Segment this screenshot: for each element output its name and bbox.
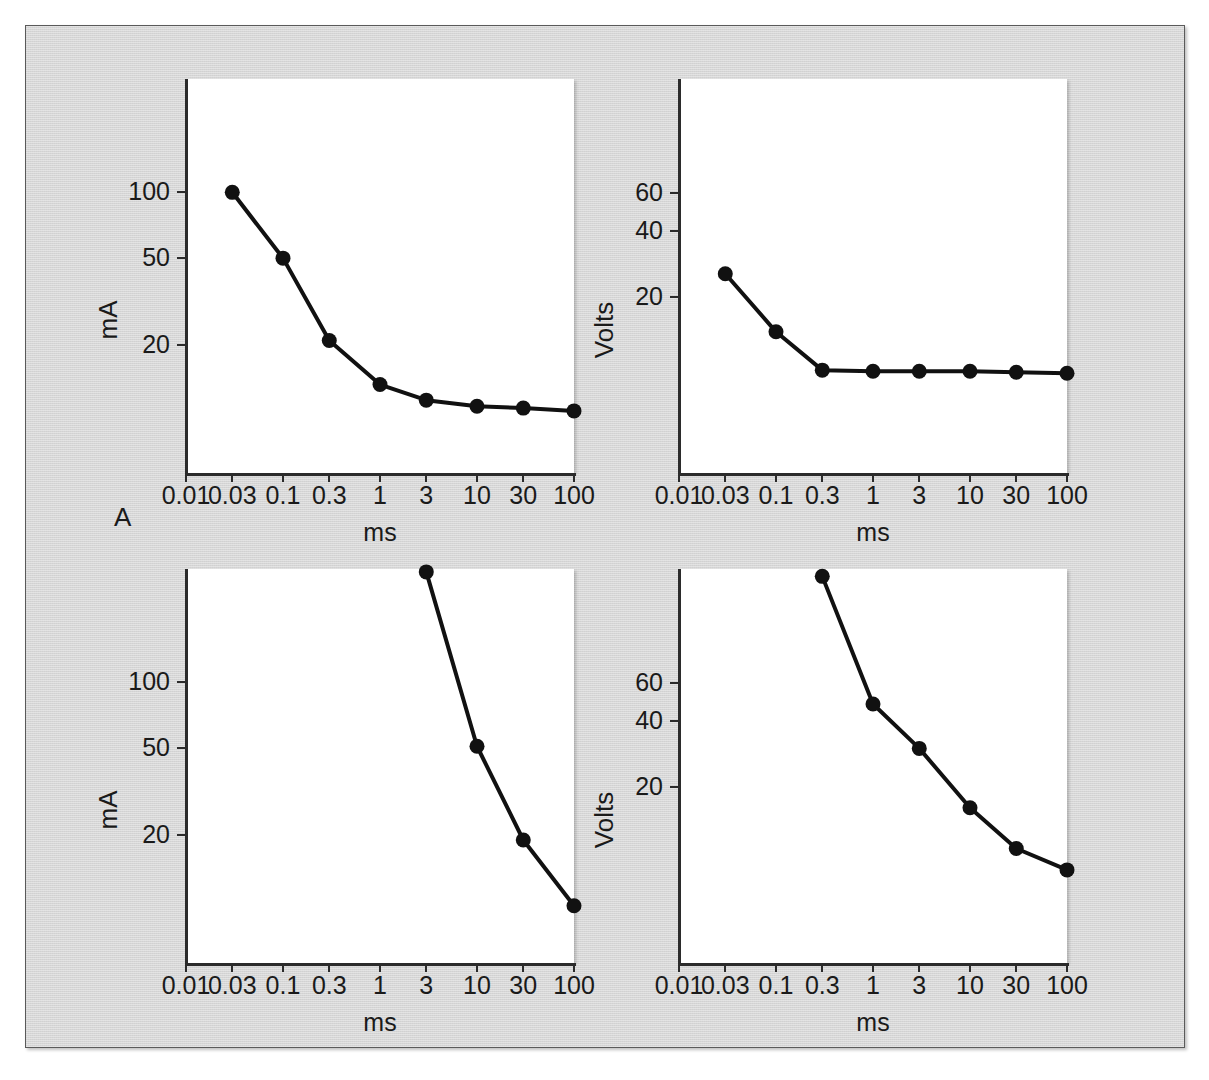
x-tick-label: 3 xyxy=(419,973,433,998)
x-tick-label: 100 xyxy=(553,973,595,998)
y-tick-mark xyxy=(670,786,679,788)
x-tick-label: 100 xyxy=(1046,973,1088,998)
data-series-line xyxy=(679,569,1067,963)
data-point-marker[interactable] xyxy=(567,403,582,418)
data-point-marker[interactable] xyxy=(322,333,337,348)
data-series-line xyxy=(186,569,574,963)
data-point-marker[interactable] xyxy=(718,266,733,281)
data-point-marker[interactable] xyxy=(419,564,434,579)
x-tick-label: 100 xyxy=(1046,483,1088,508)
x-tick-label: 30 xyxy=(509,973,537,998)
y-tick-label: 60 xyxy=(635,670,663,695)
x-tick-label: 1 xyxy=(866,483,880,508)
y-tick-mark xyxy=(670,192,679,194)
y-axis-title: Volts xyxy=(591,285,617,375)
data-point-marker[interactable] xyxy=(912,741,927,756)
x-tick-label: 0.03 xyxy=(701,973,750,998)
x-axis-title: ms xyxy=(363,520,396,545)
series-polyline xyxy=(232,192,574,411)
x-tick-label: 3 xyxy=(912,483,926,508)
y-tick-mark xyxy=(670,230,679,232)
data-point-marker[interactable] xyxy=(516,832,531,847)
data-point-marker[interactable] xyxy=(769,324,784,339)
x-tick-label: 0.1 xyxy=(759,483,794,508)
y-tick-mark xyxy=(177,681,186,683)
x-tick-label: 10 xyxy=(956,973,984,998)
figure-frame: mA ms 0.010.030.10.31310301001005020 Vol… xyxy=(25,25,1185,1048)
x-tick-label: 10 xyxy=(463,973,491,998)
x-tick-label: 0.3 xyxy=(805,483,840,508)
data-point-marker[interactable] xyxy=(1009,365,1024,380)
y-tick-mark xyxy=(177,747,186,749)
x-tick-label: 0.1 xyxy=(266,483,301,508)
y-tick-label: 40 xyxy=(635,218,663,243)
x-tick-label: 0.3 xyxy=(312,483,347,508)
y-tick-mark xyxy=(177,257,186,259)
x-tick-label: 0.03 xyxy=(701,483,750,508)
data-point-marker[interactable] xyxy=(866,364,881,379)
panel-letter-a: A xyxy=(114,504,131,530)
y-axis-title: Volts xyxy=(591,775,617,865)
data-point-marker[interactable] xyxy=(276,251,291,266)
data-point-marker[interactable] xyxy=(1060,366,1075,381)
x-tick-label: 30 xyxy=(1002,483,1030,508)
figure-caption xyxy=(25,1056,1185,1078)
y-tick-label: 60 xyxy=(635,180,663,205)
data-point-marker[interactable] xyxy=(470,739,485,754)
y-tick-label: 50 xyxy=(142,735,170,760)
y-axis-title: mA xyxy=(95,780,121,840)
x-tick-label: 0.01 xyxy=(655,973,704,998)
y-tick-label: 100 xyxy=(128,669,170,694)
data-point-marker[interactable] xyxy=(912,364,927,379)
data-series-line xyxy=(186,79,574,473)
y-tick-mark xyxy=(177,344,186,346)
y-tick-mark xyxy=(670,682,679,684)
data-point-marker[interactable] xyxy=(1009,841,1024,856)
x-tick-label: 0.03 xyxy=(208,973,257,998)
x-axis-title: ms xyxy=(363,1010,396,1035)
y-tick-label: 20 xyxy=(142,332,170,357)
x-tick-label: 0.01 xyxy=(655,483,704,508)
data-point-marker[interactable] xyxy=(470,399,485,414)
y-tick-mark xyxy=(670,296,679,298)
x-tick-label: 1 xyxy=(866,973,880,998)
data-point-marker[interactable] xyxy=(963,800,978,815)
y-tick-mark xyxy=(670,720,679,722)
series-polyline xyxy=(426,572,574,906)
x-tick-label: 10 xyxy=(463,483,491,508)
y-axis-title: mA xyxy=(95,290,121,350)
data-point-marker[interactable] xyxy=(419,393,434,408)
data-point-marker[interactable] xyxy=(815,569,830,584)
x-tick-label: 0.01 xyxy=(162,483,211,508)
y-tick-label: 20 xyxy=(635,774,663,799)
x-tick-label: 1 xyxy=(373,483,387,508)
data-point-marker[interactable] xyxy=(516,401,531,416)
data-point-marker[interactable] xyxy=(1060,862,1075,877)
data-point-marker[interactable] xyxy=(866,696,881,711)
x-tick-label: 0.1 xyxy=(759,973,794,998)
y-tick-mark xyxy=(177,834,186,836)
data-point-marker[interactable] xyxy=(567,898,582,913)
y-tick-label: 20 xyxy=(142,822,170,847)
x-tick-label: 1 xyxy=(373,973,387,998)
x-tick-label: 0.1 xyxy=(266,973,301,998)
data-point-marker[interactable] xyxy=(225,185,240,200)
y-tick-mark xyxy=(177,191,186,193)
x-tick-label: 0.03 xyxy=(208,483,257,508)
x-tick-label: 0.3 xyxy=(312,973,347,998)
y-tick-label: 20 xyxy=(635,284,663,309)
x-tick-label: 0.01 xyxy=(162,973,211,998)
x-tick-label: 30 xyxy=(509,483,537,508)
data-point-marker[interactable] xyxy=(373,377,388,392)
data-series-line xyxy=(679,79,1067,473)
x-axis-title: ms xyxy=(856,1010,889,1035)
x-tick-label: 30 xyxy=(1002,973,1030,998)
x-tick-label: 0.3 xyxy=(805,973,840,998)
x-axis-title: ms xyxy=(856,520,889,545)
x-tick-label: 100 xyxy=(553,483,595,508)
x-tick-label: 3 xyxy=(419,483,433,508)
data-point-marker[interactable] xyxy=(963,364,978,379)
series-polyline xyxy=(822,576,1067,870)
data-point-marker[interactable] xyxy=(815,363,830,378)
y-tick-label: 100 xyxy=(128,179,170,204)
